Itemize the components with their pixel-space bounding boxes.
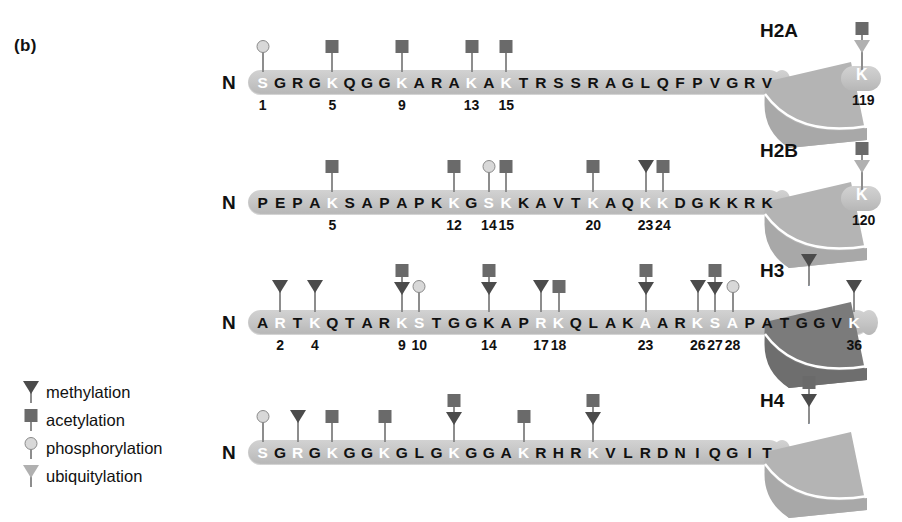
position-number: 9 xyxy=(398,97,406,113)
mark-stem xyxy=(331,50,333,72)
mark-stem xyxy=(314,290,316,312)
square-dark-icon xyxy=(448,394,461,407)
residue: D xyxy=(654,440,671,465)
residue: K xyxy=(654,190,671,215)
square-dark-icon xyxy=(326,160,339,173)
residue: T xyxy=(776,310,793,335)
mark-stem xyxy=(662,170,664,192)
residue: S xyxy=(480,190,497,215)
residue: H xyxy=(550,440,567,465)
mark-stem xyxy=(853,290,855,312)
circle-light-icon xyxy=(726,280,739,293)
residue: R xyxy=(741,190,758,215)
residue: G xyxy=(724,440,741,465)
position-number: 5 xyxy=(328,217,336,233)
residue: L xyxy=(619,440,636,465)
residue: K xyxy=(619,310,636,335)
residue: G xyxy=(271,70,288,95)
residue: K xyxy=(584,440,601,465)
residue: G xyxy=(689,190,706,215)
position-number: 15 xyxy=(499,217,515,233)
residue: K xyxy=(445,190,462,215)
core-residue-H2A: K xyxy=(856,66,868,84)
square-dark-icon xyxy=(378,410,391,423)
residue: T xyxy=(428,310,445,335)
mark-stem xyxy=(401,50,403,72)
residue: P xyxy=(289,190,306,215)
position-number: 18 xyxy=(551,337,567,353)
mark-stem xyxy=(697,290,699,312)
mark-stem xyxy=(505,170,507,192)
triangle-dark-icon xyxy=(23,381,39,394)
residue: K xyxy=(758,190,775,215)
residue: G xyxy=(480,440,497,465)
residue: G xyxy=(463,190,480,215)
square-dark-icon xyxy=(517,410,530,423)
histone-name-H3: H3 xyxy=(760,260,784,282)
residue: K xyxy=(550,310,567,335)
residue: Q xyxy=(567,310,584,335)
square-dark-icon xyxy=(587,160,600,173)
residue: S xyxy=(567,70,584,95)
mark-stem xyxy=(418,290,420,312)
square-dark-icon xyxy=(482,264,495,277)
histone-row-H2B: H2B120KNPEPAKSAPAPKKGSKKAVTKAQKKDGKKRK51… xyxy=(0,128,902,248)
residue: R xyxy=(671,310,688,335)
residue: T xyxy=(341,310,358,335)
residue: A xyxy=(602,190,619,215)
residue: G xyxy=(393,440,410,465)
square-dark-icon xyxy=(656,160,669,173)
position-number: 9 xyxy=(398,337,406,353)
residue: K xyxy=(480,310,497,335)
legend-label: acetylation xyxy=(46,412,125,429)
position-number: 28 xyxy=(725,337,741,353)
legend-label: methylation xyxy=(46,384,130,401)
position-number: 1 xyxy=(259,97,267,113)
residue: A xyxy=(254,310,271,335)
residue: K xyxy=(393,70,410,95)
residue: A xyxy=(393,190,410,215)
residue: D xyxy=(671,190,688,215)
legend-item-ubiquitylation: ubiquitylation xyxy=(18,462,163,490)
residue: R xyxy=(584,70,601,95)
square-dark-icon xyxy=(500,40,513,53)
residue: G xyxy=(463,440,480,465)
mark-stem xyxy=(732,290,734,312)
triangle-dark-icon xyxy=(481,282,497,295)
position-number: 36 xyxy=(847,337,863,353)
residue: R xyxy=(637,440,654,465)
residue: A xyxy=(602,310,619,335)
legend-mark-phosphorylation xyxy=(18,435,44,461)
residue: K xyxy=(463,70,480,95)
core-residue-number-H2B: 120 xyxy=(852,212,875,228)
residue: P xyxy=(741,310,758,335)
square-dark-icon xyxy=(500,160,513,173)
circle-light-icon xyxy=(482,160,495,173)
residue: E xyxy=(271,190,288,215)
residue: Q xyxy=(706,440,723,465)
residue: I xyxy=(741,440,758,465)
core-residue-H3: K 79 xyxy=(803,282,834,300)
n-terminus-label-H3: N xyxy=(222,313,236,332)
position-number: 23 xyxy=(638,337,654,353)
legend-mark-ubiquitylation xyxy=(18,463,44,489)
residue: K xyxy=(445,440,462,465)
residue: T xyxy=(515,70,532,95)
position-number: 17 xyxy=(533,337,549,353)
square-dark-icon xyxy=(395,40,408,53)
residue: A xyxy=(358,310,375,335)
mark-stem xyxy=(279,290,281,312)
residue: V xyxy=(602,440,619,465)
histone-name-H4: H4 xyxy=(760,390,784,412)
residue: V xyxy=(828,310,845,335)
core-residue-H2B: K xyxy=(856,186,868,204)
residue: T xyxy=(758,440,775,465)
legend-item-methylation: methylation xyxy=(18,378,163,406)
residue: R xyxy=(271,310,288,335)
residue: N xyxy=(671,440,688,465)
residue: Q xyxy=(324,310,341,335)
residue: S xyxy=(411,310,428,335)
mark-stem xyxy=(384,420,386,442)
residue: K xyxy=(324,190,341,215)
residue: K xyxy=(428,190,445,215)
